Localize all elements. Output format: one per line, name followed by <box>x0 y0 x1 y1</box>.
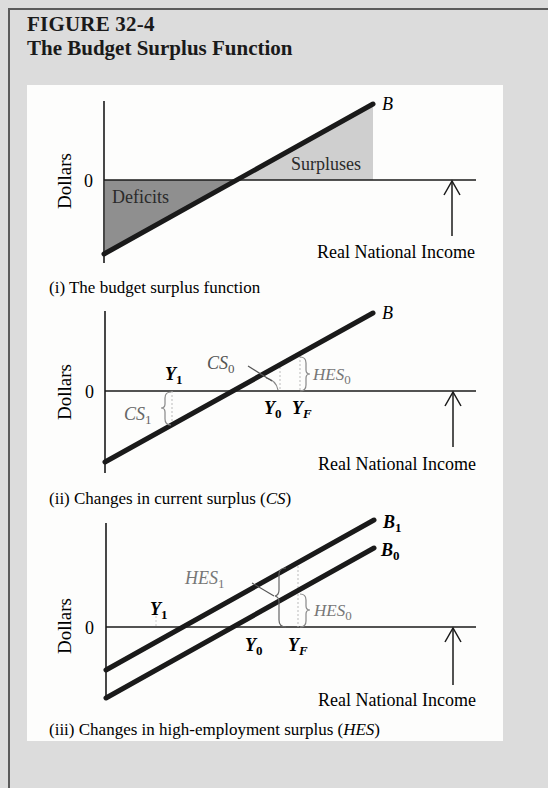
panel-caption: (i) The budget surplus function <box>49 278 261 297</box>
panel-caption: (iii) Changes in high-employment surplus… <box>49 720 380 739</box>
label-y0: Y0 <box>264 398 282 421</box>
label-yf: YF <box>288 635 308 658</box>
label-yf: YF <box>292 398 312 421</box>
zero-label: 0 <box>85 382 94 402</box>
line-label-b: B <box>382 303 393 323</box>
budget-line-b1 <box>106 520 374 670</box>
budget-line-b0 <box>106 548 374 698</box>
surpluses-label: Surpluses <box>291 154 361 174</box>
line-label-b0: B0 <box>380 540 400 563</box>
label-hes0: HES0 <box>313 601 352 623</box>
y-axis-label: Dollars <box>54 598 75 654</box>
label-cs1: CS1 <box>124 404 152 427</box>
label-y0: Y0 <box>245 635 263 658</box>
panel-ii: Dollars 0 B Y1 CS0 CS1 HES0 Y0 YF Real N… <box>49 303 476 508</box>
hes0-brace <box>300 357 310 391</box>
panel-i: Dollars 0 Deficits Surpluses B Real Nati… <box>49 94 476 297</box>
line-label-b1: B1 <box>382 512 402 535</box>
label-y1: Y1 <box>150 599 168 622</box>
panel-iii: Dollars 0 B1 B0 HES1 HES0 Y1 Y0 YF Real … <box>49 512 476 739</box>
deficits-label: Deficits <box>112 187 169 207</box>
panel-caption: (ii) Changes in current surplus (CS) <box>49 489 291 508</box>
cs1-brace <box>161 392 171 425</box>
x-axis-label: Real National Income <box>318 454 476 474</box>
budget-line-b <box>105 313 373 462</box>
x-axis-label: Real National Income <box>317 242 475 262</box>
x-axis-label: Real National Income <box>318 690 476 710</box>
label-y1: Y1 <box>165 364 183 387</box>
y-axis-label: Dollars <box>54 153 75 209</box>
hes0-brace <box>300 594 310 627</box>
label-cs0: CS0 <box>207 353 235 376</box>
line-label-b: B <box>382 94 393 114</box>
label-hes1: HES1 <box>184 568 225 591</box>
cs0-brace <box>266 378 278 390</box>
zero-label: 0 <box>84 171 93 191</box>
label-hes0: HES0 <box>312 365 351 387</box>
zero-label: 0 <box>85 618 94 638</box>
y-axis-label: Dollars <box>54 364 75 420</box>
